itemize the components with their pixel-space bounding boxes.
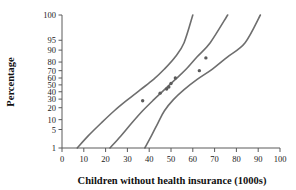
- data-point: [158, 91, 161, 94]
- x-tick-label: 70: [210, 154, 219, 164]
- curves-layer: [77, 15, 260, 148]
- x-tick-label: 10: [80, 154, 89, 164]
- data-point: [198, 69, 201, 72]
- x-tick-label: 0: [60, 154, 64, 164]
- y-tick-label: 90: [48, 45, 57, 55]
- x-tick-label: 50: [167, 154, 176, 164]
- x-tick-label: 60: [189, 154, 198, 164]
- y-tick-label: 80: [48, 57, 57, 67]
- y-tick-label: 95: [48, 35, 57, 45]
- axis-labels-layer: 1510203040506070809095100010203040506070…: [43, 10, 286, 164]
- x-tick-label: 80: [232, 154, 241, 164]
- data-point: [174, 76, 177, 79]
- x-axis-title: Children without health insurance (1000s…: [78, 175, 267, 187]
- y-axis-title: Percentage: [5, 57, 16, 107]
- data-point: [169, 82, 172, 85]
- chart-canvas: 1510203040506070809095100010203040506070…: [0, 0, 296, 190]
- y-tick-label: 10: [48, 115, 57, 125]
- curve-lower-confidence-band: [145, 15, 261, 148]
- data-point: [204, 56, 207, 59]
- x-tick-label: 40: [145, 154, 154, 164]
- curve-fitted-line: [110, 15, 228, 148]
- x-tick-label: 30: [123, 154, 132, 164]
- x-tick-label: 20: [101, 154, 110, 164]
- y-tick-label: 70: [48, 66, 57, 76]
- curve-upper-confidence-band: [77, 15, 193, 148]
- x-tick-label: 90: [254, 154, 263, 164]
- data-point: [167, 85, 170, 88]
- y-tick-label: 5: [52, 125, 56, 135]
- y-tick-label: 20: [48, 103, 57, 113]
- probability-plot-figure: 1510203040506070809095100010203040506070…: [0, 0, 296, 190]
- y-tick-label: 100: [43, 10, 56, 20]
- y-tick-label: 1: [52, 143, 56, 153]
- data-point: [141, 99, 144, 102]
- x-tick-label: 100: [274, 154, 287, 164]
